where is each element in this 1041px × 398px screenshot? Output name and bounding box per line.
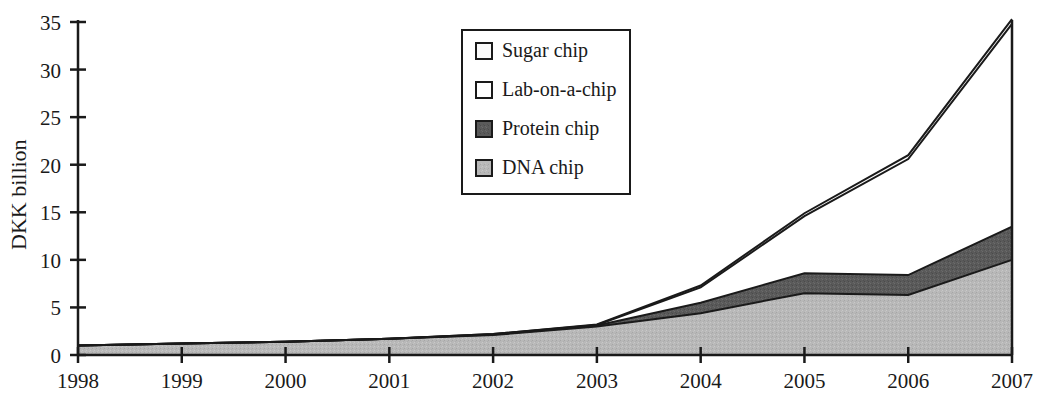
chart-canvas: 05101520253035 1998199920002001200220032… bbox=[0, 0, 1041, 398]
y-tick-label: 35 bbox=[40, 11, 61, 35]
y-tick-label: 15 bbox=[40, 201, 61, 225]
legend-label-sugar-chip: Sugar chip bbox=[502, 39, 588, 62]
x-tick-label: 1998 bbox=[57, 369, 99, 393]
area-chart-figure: 05101520253035 1998199920002001200220032… bbox=[0, 0, 1041, 398]
legend-swatch-fill bbox=[479, 124, 489, 134]
x-tick-label: 2004 bbox=[680, 369, 723, 393]
x-tick-label: 2001 bbox=[368, 369, 410, 393]
x-tick-label: 2006 bbox=[887, 369, 929, 393]
x-tick-label: 1999 bbox=[161, 369, 203, 393]
chart-legend: Sugar chipLab-on-a-chipProtein chipDNA c… bbox=[462, 30, 630, 194]
legend-swatch-lab-on-a-chip bbox=[476, 82, 492, 98]
legend-swatch-fill bbox=[479, 163, 489, 173]
legend-label-protein-chip: Protein chip bbox=[502, 117, 599, 140]
x-tick-label: 2000 bbox=[265, 369, 307, 393]
x-tick-label: 2005 bbox=[783, 369, 825, 393]
legend-swatch-sugar-chip bbox=[476, 43, 492, 59]
y-tick-label: 5 bbox=[51, 296, 62, 320]
legend-label-lab-on-a-chip: Lab-on-a-chip bbox=[502, 78, 616, 101]
x-tick-label: 2007 bbox=[991, 369, 1033, 393]
y-tick-label: 0 bbox=[51, 344, 62, 368]
y-tick-label: 30 bbox=[40, 59, 61, 83]
y-tick-label: 20 bbox=[40, 154, 61, 178]
x-tick-label: 2003 bbox=[576, 369, 618, 393]
y-tick-label: 10 bbox=[40, 249, 61, 273]
y-axis-title: DKK billion bbox=[6, 139, 31, 250]
x-tick-label: 2002 bbox=[472, 369, 514, 393]
legend-label-dna-chip: DNA chip bbox=[502, 156, 584, 179]
y-tick-label: 25 bbox=[40, 106, 61, 130]
